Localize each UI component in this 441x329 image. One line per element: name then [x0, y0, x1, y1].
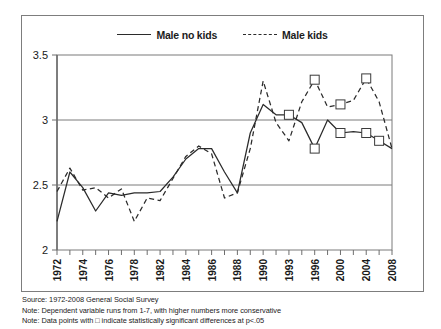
x-tick-label: 1984 [181, 259, 192, 282]
x-tick-label: 1972 [52, 259, 63, 282]
x-tick-label: 2004 [361, 259, 372, 282]
x-tick-label: 1976 [104, 259, 115, 282]
significance-marker [375, 136, 384, 145]
x-tick-label: 1993 [284, 259, 295, 282]
significance-marker [362, 74, 371, 83]
figure-footnotes: Source: 1972-2008 General Social Survey … [22, 295, 432, 327]
significance-marker [284, 110, 293, 119]
y-tick-label: 3 [42, 114, 48, 126]
significance-marker [336, 129, 345, 138]
plot-area: 22.533.519721974197619781982198419861988… [0, 0, 441, 295]
y-tick-label: 2.5 [33, 179, 48, 191]
significance-marker [310, 75, 319, 84]
y-tick-label: 2 [42, 244, 48, 256]
y-tick-label: 3.5 [33, 49, 48, 61]
x-tick-label: 1978 [129, 259, 140, 282]
x-tick-label: 1988 [232, 259, 243, 282]
x-tick-label: 1986 [207, 259, 218, 282]
series-line-male-no-kids [57, 104, 392, 221]
significance-marker [362, 129, 371, 138]
plot-border [57, 55, 392, 250]
x-tick-label: 1982 [155, 259, 166, 282]
x-tick-label: 1996 [310, 259, 321, 282]
footnote-significance: Note: Data points with □ indicate statis… [22, 316, 432, 327]
chart-figure: Male no kids Male kids 22.533.5197219741… [0, 0, 441, 329]
significance-marker [310, 144, 319, 153]
x-tick-label: 1990 [258, 259, 269, 282]
footnote-source: Source: 1972-2008 General Social Survey [22, 295, 432, 306]
x-tick-label: 2000 [335, 259, 346, 282]
x-tick-label: 1974 [78, 259, 89, 282]
x-tick-label: 2008 [387, 259, 398, 282]
significance-marker [336, 100, 345, 109]
footnote-dependent-variable: Note: Dependent variable runs from 1-7, … [22, 306, 432, 317]
